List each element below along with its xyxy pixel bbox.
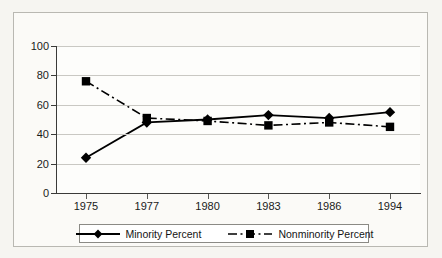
plot-area — [56, 46, 420, 193]
y-tick-mark-20 — [51, 164, 56, 165]
x-tick-label-1994: 1994 — [366, 200, 414, 212]
legend-entry-nonminority-percent: Nonminority Percent — [227, 228, 373, 240]
y-tick-mark-80 — [51, 75, 56, 76]
chart-legend: Minority Percent Nonminority Percent — [79, 224, 369, 243]
y-tick-mark-0 — [51, 193, 56, 194]
x-tick-label-1977: 1977 — [123, 200, 171, 212]
data-point-minority-1975 — [81, 153, 91, 163]
legend-label-minority-percent: Minority Percent — [126, 228, 202, 240]
x-axis-line — [56, 193, 421, 194]
x-tick-label-1986: 1986 — [305, 200, 353, 212]
series-line-minority-percent — [86, 112, 390, 158]
y-tick-label-20: 20 — [5, 158, 49, 169]
y-tick-label-100: 100 — [5, 41, 49, 52]
y-tick-label-60: 60 — [5, 99, 49, 110]
y-tick-mark-100 — [51, 46, 56, 47]
x-tick-mark-1994 — [390, 194, 391, 199]
data-point-nonminority-1983 — [264, 121, 272, 129]
x-tick-mark-1983 — [268, 194, 269, 199]
data-point-nonminority-1994 — [386, 123, 394, 131]
chart-figure: 100 80 60 40 20 0 1975 1977 1980 1983 19… — [0, 0, 442, 258]
data-point-minority-1983 — [263, 110, 273, 120]
y-tick-label-0: 0 — [5, 188, 49, 199]
x-tick-label-1983: 1983 — [244, 200, 292, 212]
series-line-nonminority-percent — [86, 81, 390, 127]
data-point-nonminority-1975 — [82, 77, 90, 85]
chart-data-layer — [56, 46, 420, 193]
x-tick-mark-1977 — [147, 194, 148, 199]
legend-swatch-nonminority-square-icon — [227, 228, 273, 240]
y-tick-mark-40 — [51, 134, 56, 135]
x-tick-label-1975: 1975 — [62, 200, 110, 212]
y-tick-mark-60 — [51, 105, 56, 106]
y-axis-line — [56, 46, 57, 194]
x-tick-mark-1980 — [208, 194, 209, 199]
y-tick-label-40: 40 — [5, 129, 49, 140]
legend-entry-minority-percent: Minority Percent — [75, 228, 202, 240]
legend-label-nonminority-percent: Nonminority Percent — [278, 228, 373, 240]
x-tick-label-1980: 1980 — [184, 200, 232, 212]
y-tick-label-80: 80 — [5, 70, 49, 81]
legend-swatch-minority-diamond-icon — [75, 228, 121, 240]
y-axis-tick-labels: 100 80 60 40 20 0 — [0, 0, 49, 258]
x-tick-mark-1986 — [329, 194, 330, 199]
data-point-minority-1994 — [385, 107, 395, 117]
x-tick-mark-1975 — [86, 194, 87, 199]
